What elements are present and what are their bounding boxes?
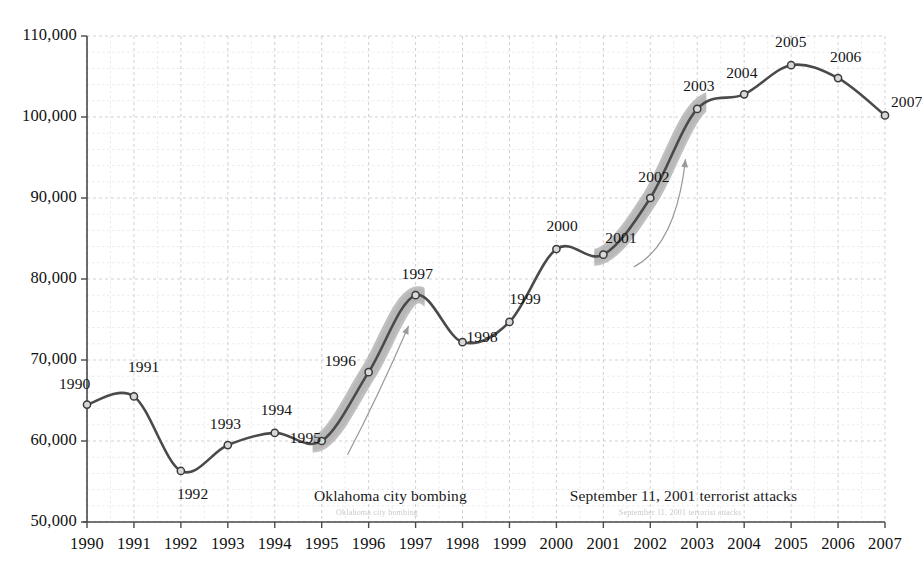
data-point-label: 2001 <box>605 229 636 247</box>
data-point-label: 1992 <box>177 485 208 503</box>
annotation-september-11-attacks: September 11, 2001 terrorist attacks <box>570 487 797 505</box>
data-point-label: 1998 <box>467 328 498 346</box>
annotation-september-11-ghost-text: September 11, 2001 terrorist attacks <box>619 508 742 517</box>
y-axis-tick-label: 110,000 <box>23 25 77 45</box>
y-axis-tick-label: 60,000 <box>30 430 77 450</box>
annotation-oklahoma-city-bombing: Oklahoma city bombing <box>314 487 467 505</box>
data-point-label: 1995 <box>290 429 321 447</box>
data-point-label: 2006 <box>830 48 861 66</box>
data-point-label: 1990 <box>59 375 90 393</box>
y-axis-tick-label: 80,000 <box>30 268 77 288</box>
y-axis-tick-label: 70,000 <box>30 349 77 369</box>
x-axis-tick-label: 2007 <box>855 534 915 554</box>
data-point-label: 2007 <box>891 93 922 111</box>
data-point-label: 1994 <box>261 401 292 419</box>
data-point-label: 2002 <box>638 168 669 186</box>
major-gridlines <box>87 36 885 522</box>
y-axis-tick-label: 50,000 <box>30 511 77 531</box>
data-point-label: 2004 <box>726 64 757 82</box>
data-point-label: 1991 <box>128 358 159 376</box>
data-point-label: 2003 <box>683 77 714 95</box>
data-point-label: 1999 <box>509 290 540 308</box>
y-axis-tick-label: 90,000 <box>30 187 77 207</box>
data-point-label: 2005 <box>775 33 806 51</box>
axes <box>81 36 885 528</box>
data-point-label: 1997 <box>402 265 433 283</box>
y-axis-tick-label: 100,000 <box>22 106 77 126</box>
data-point-label: 2000 <box>546 217 577 235</box>
annotation-oklahoma-ghost-text: Oklahoma city bombing <box>336 508 418 517</box>
data-point-label: 1993 <box>210 415 241 433</box>
data-point-label: 1996 <box>325 352 356 370</box>
